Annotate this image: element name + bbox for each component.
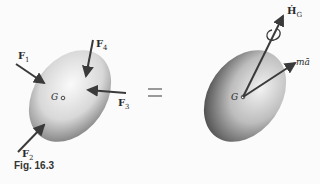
label-f4: F4: [96, 38, 108, 52]
figure-caption: Fig. 16.3: [14, 160, 54, 171]
equals-sign: [148, 88, 162, 97]
label-g-left: G: [51, 92, 58, 102]
force-f1-arrow: [16, 64, 44, 83]
label-f3: F3: [118, 97, 130, 111]
label-hg: ḢG: [287, 5, 302, 19]
label-g-right: G: [231, 92, 238, 102]
label-f1: F1: [18, 50, 30, 64]
label-ma: mā: [296, 57, 310, 67]
